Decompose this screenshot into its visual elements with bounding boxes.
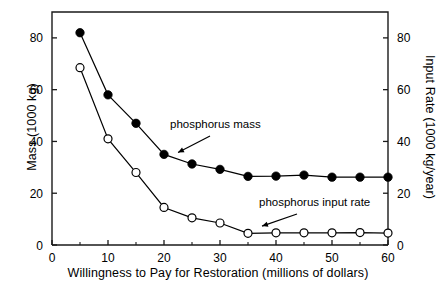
y-tick-label-left: 20 xyxy=(30,187,44,201)
series-line-1 xyxy=(80,33,388,177)
data-point-open xyxy=(216,219,224,227)
data-point-open xyxy=(384,229,392,237)
x-tick-label: 30 xyxy=(213,251,227,265)
data-point-filled xyxy=(104,91,112,99)
data-point-filled xyxy=(356,173,364,181)
y-tick-label-right: 0 xyxy=(397,239,404,253)
data-point-filled xyxy=(272,172,280,180)
y-tick-label-left: 0 xyxy=(36,239,43,253)
data-point-open xyxy=(356,229,364,237)
x-tick-label: 50 xyxy=(325,251,339,265)
y-tick-label-left: 40 xyxy=(30,135,44,149)
x-tick-label: 60 xyxy=(381,251,395,265)
data-point-filled xyxy=(160,150,168,158)
y-tick-label-left: 80 xyxy=(30,31,44,45)
plot-area: 0102030405060020406080020406080phosphoru… xyxy=(0,0,436,291)
data-point-filled xyxy=(216,165,224,173)
data-point-filled xyxy=(76,29,84,37)
series-line-2 xyxy=(80,68,388,234)
data-point-filled xyxy=(384,173,392,181)
data-point-open xyxy=(272,229,280,237)
chart-figure: Mass (1000 kg) Input Rate (1000 kg/year)… xyxy=(0,0,436,291)
data-point-filled xyxy=(132,119,140,127)
data-point-filled xyxy=(300,171,308,179)
data-point-open xyxy=(300,229,308,237)
y-tick-label-right: 80 xyxy=(397,31,411,45)
x-tick-label: 10 xyxy=(101,251,115,265)
y-tick-label-right: 60 xyxy=(397,83,411,97)
x-tick-label: 40 xyxy=(269,251,283,265)
y-tick-label-left: 60 xyxy=(30,83,44,97)
data-point-open xyxy=(244,229,252,237)
annotation-phosphorus-input-rate: phosphorus input rate xyxy=(259,196,370,208)
y-tick-label-right: 40 xyxy=(397,135,411,149)
data-point-open xyxy=(328,229,336,237)
annotation-phosphorus-mass: phosphorus mass xyxy=(170,118,261,130)
data-point-open xyxy=(104,135,112,143)
x-tick-label: 0 xyxy=(49,251,56,265)
data-point-open xyxy=(132,169,140,177)
data-point-filled xyxy=(244,172,252,180)
data-point-filled xyxy=(188,160,196,168)
x-tick-label: 20 xyxy=(157,251,171,265)
y-tick-label-right: 20 xyxy=(397,187,411,201)
data-point-filled xyxy=(328,173,336,181)
data-point-open xyxy=(160,203,168,211)
data-point-open xyxy=(76,64,84,72)
data-point-open xyxy=(188,214,196,222)
annotation-phosphorus-input-rate-arrow-head xyxy=(262,222,268,227)
